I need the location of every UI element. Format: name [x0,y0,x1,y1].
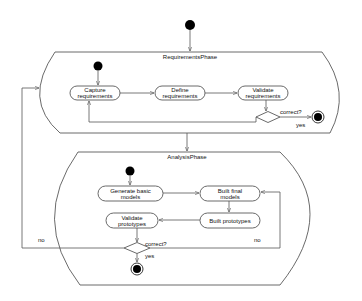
svg-text:models: models [121,194,140,200]
no-label-left: no [38,237,45,243]
final-node-analysis [131,263,143,275]
activity-generate-basic-models: Generate basic models [98,186,163,201]
svg-text:prototypes: prototypes [118,221,146,227]
activity-validate-prototypes: Validate prototypes [106,213,158,228]
svg-text:requirements: requirements [77,93,112,99]
yes-label: yes [145,253,154,259]
analysis-phase-label: AnalysisPhase [167,154,207,160]
activity-capture-requirements: Capture requirements [70,86,120,100]
decision-requirements [256,112,280,123]
svg-text:Built prototypes: Built prototypes [209,218,250,224]
svg-text:requirements: requirements [162,93,197,99]
svg-text:models: models [220,194,239,200]
activity-define-requirements: Define requirements [155,86,205,100]
initial-node-analysis [126,167,135,176]
svg-text:requirements: requirements [245,93,280,99]
activity-validate-requirements: Validate requirements [238,86,288,100]
activity-diagram: RequirementsPhase Capture requirements D… [0,0,362,301]
requirements-phase-label: RequirementsPhase [163,54,218,60]
decision-label: correct? [145,241,167,247]
yes-label: yes [296,122,305,128]
no-label-right: no [254,237,261,243]
initial-node-requirements [94,62,103,71]
activity-built-prototypes: Built prototypes [200,213,260,228]
final-node-requirements [312,111,324,123]
analysis-phase-container [54,152,310,285]
initial-node-top [185,20,195,30]
flow-arrow-retry [89,101,256,122]
decision-label: correct? [280,109,302,115]
activity-built-final-models: Built final models [200,186,260,201]
